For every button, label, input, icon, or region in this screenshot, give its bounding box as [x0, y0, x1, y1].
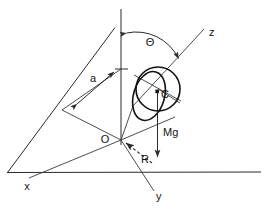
incline-edge-line: [8, 28, 116, 173]
z-axis-label: z: [209, 26, 215, 38]
y-axis-label: y: [156, 190, 162, 202]
x-axis-line: [29, 117, 175, 178]
weight-label: Mg: [163, 126, 178, 138]
ground-line: [7, 172, 261, 173]
construction-lines: [62, 69, 133, 140]
reaction-label: R: [141, 153, 149, 165]
distance-a-label: a: [90, 72, 97, 84]
center-of-mass-label: C: [161, 88, 169, 100]
x-axis-label: x: [24, 180, 30, 192]
y-axis-line: [121, 140, 154, 191]
mechanics-diagram: Θ z y x O C Mg R a: [0, 0, 267, 218]
theta-label: Θ: [146, 36, 155, 48]
figure-container: Θ z y x O C Mg R a: [0, 0, 267, 218]
origin-label: O: [101, 133, 110, 145]
